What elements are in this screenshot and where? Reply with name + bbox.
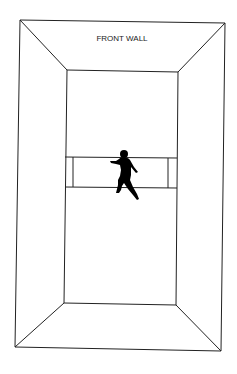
corner-line-bottom-right: [176, 305, 221, 351]
court-diagram: FRONT WALL: [0, 0, 237, 374]
corner-line-bottom-left: [15, 303, 64, 347]
corner-line-top-left: [20, 20, 67, 70]
front-wall-label: FRONT WALL: [96, 34, 148, 43]
corner-line-top-right: [178, 23, 225, 72]
service-line-top: [65, 157, 177, 158]
